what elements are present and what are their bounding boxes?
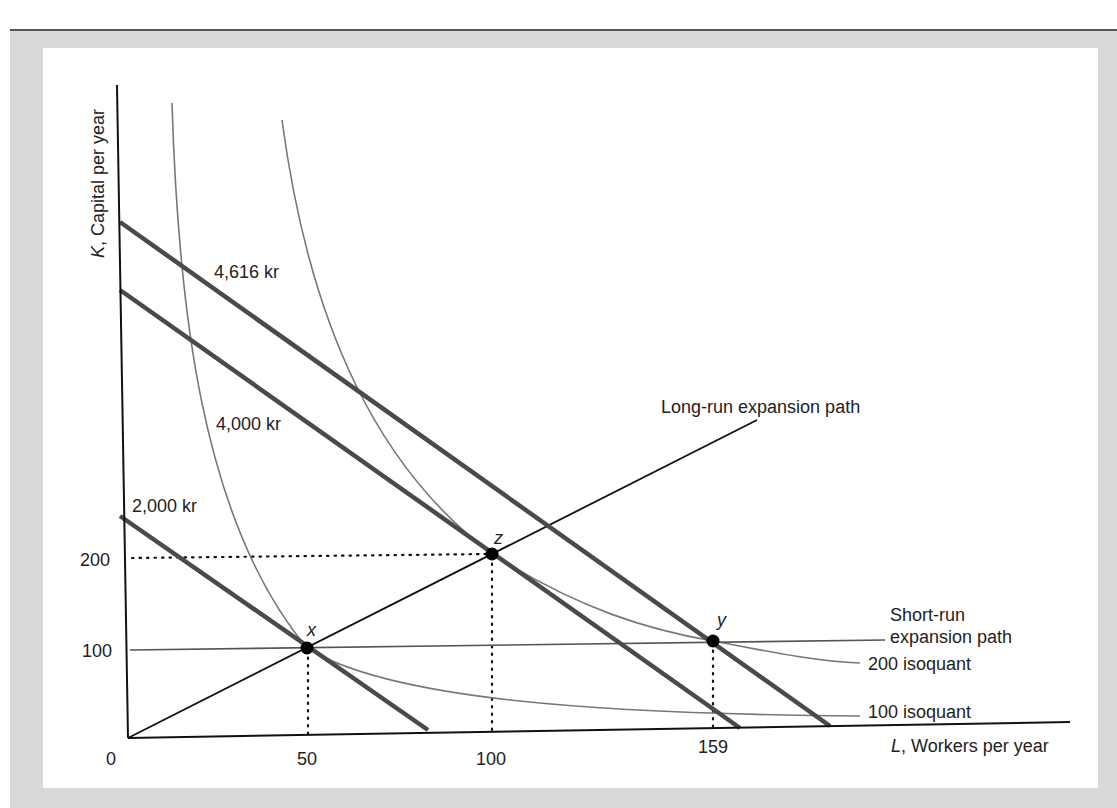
label-long-run-path: Long-run expansion path xyxy=(661,397,860,417)
guide-z-horizontal xyxy=(132,554,490,558)
label-point-z: z xyxy=(493,528,503,548)
label-point-x: x xyxy=(306,620,317,640)
x-tick-159: 159 xyxy=(698,737,728,757)
origin-label: 0 xyxy=(106,749,116,769)
isocost-4616 xyxy=(120,222,830,726)
isocost-4000 xyxy=(120,290,740,728)
x-tick-50: 50 xyxy=(297,749,317,769)
label-isocost-2000: 2,000 kr xyxy=(132,496,197,516)
short-run-expansion-path xyxy=(130,640,885,650)
y-tick-200: 200 xyxy=(80,550,110,570)
isoquant-200 xyxy=(282,120,860,663)
label-point-y: y xyxy=(715,610,727,630)
x-tick-100: 100 xyxy=(476,749,506,769)
label-short-run-line2: expansion path xyxy=(890,627,1012,647)
label-isocost-4616: 4,616 kr xyxy=(214,262,279,282)
label-isocost-4000: 4,000 kr xyxy=(216,414,281,434)
y-axis xyxy=(117,85,128,738)
label-isoquant-100: 100 isoquant xyxy=(868,702,971,722)
point-y xyxy=(707,635,720,648)
y-axis-title: K, Capital per year xyxy=(88,109,108,258)
isocost-2000 xyxy=(120,516,428,730)
point-x xyxy=(301,642,314,655)
label-short-run-line1: Short-run xyxy=(890,605,965,625)
x-axis-title: L, Workers per year xyxy=(891,736,1049,756)
y-tick-100: 100 xyxy=(82,641,112,661)
label-isoquant-200: 200 isoquant xyxy=(868,654,971,674)
point-z xyxy=(486,548,499,561)
isocost-lines xyxy=(120,222,830,730)
